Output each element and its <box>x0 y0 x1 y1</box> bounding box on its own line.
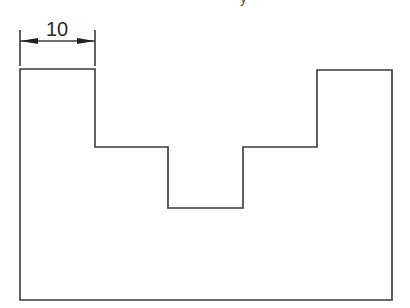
arrowhead-left-icon <box>20 38 38 44</box>
stepped-profile-outline <box>20 69 392 300</box>
arrowhead-right-icon <box>77 38 95 44</box>
width-dimension: 10 <box>20 18 95 66</box>
dimension-label: 10 <box>46 18 68 40</box>
drawing-canvas: 10 <box>0 0 410 308</box>
